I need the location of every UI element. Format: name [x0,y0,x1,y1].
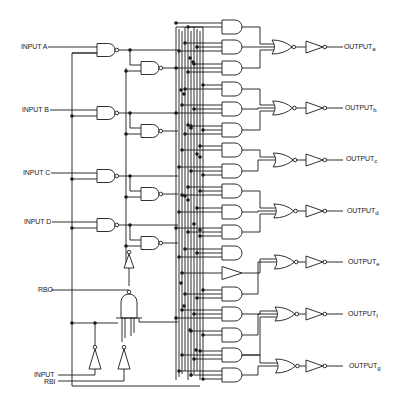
junction-dot [195,45,199,49]
wire [242,108,275,109]
junction-dot [195,296,199,300]
nor-gate [272,40,292,54]
wire [242,89,275,105]
rbo-nand-gate [121,294,137,318]
wire [130,176,141,191]
inversion-bubble [323,106,327,110]
inversion-bubble [115,111,119,115]
junction-dot [177,369,181,373]
junction-dot [124,132,128,136]
wire [242,355,278,363]
buffer-gate [222,267,242,280]
junction-dot [186,70,190,74]
junction-dot [177,165,181,169]
inverter-gate [306,154,323,166]
junction-dot [189,126,193,130]
wire [242,214,276,232]
input-b-label: INPUT B [22,106,49,113]
junction-dot [189,169,193,173]
inverter-gate [306,256,323,268]
wire [242,27,274,44]
and-gate [222,205,242,219]
junction-dot [182,92,186,96]
junction-dot [201,288,205,292]
junction-dot [201,333,205,337]
input-rbi-label-line1: INPUT [34,371,55,378]
input-nand-gate [97,219,115,232]
junction-dot [183,41,187,45]
junction-dot [174,21,178,25]
inversion-bubble [323,364,327,368]
junction-dot [186,185,190,189]
junction-dot [124,69,128,73]
output-b-prefix: OUTPUT [345,104,373,111]
and-gate [222,61,242,75]
junction-dot [174,111,178,115]
junction-dot [183,247,187,251]
inversion-bubble [159,192,163,196]
wire [242,111,275,130]
input-nand-gate [141,188,159,201]
wire [242,50,274,68]
inversion-bubble [127,250,131,254]
wire [242,160,275,171]
junction-dot [195,152,199,156]
junction-dot [183,132,187,136]
output-g-prefix: OUTPUT [349,362,377,369]
junction-dot [198,234,202,238]
output-d-label: OUTPUTd [347,207,378,214]
junction-dot [180,353,184,357]
inverter-gate [124,254,134,268]
output-c-label: OUTPUTc [346,155,377,162]
wire [130,50,141,65]
junction-dot [180,271,184,275]
inversion-bubble [115,48,119,52]
output-f-sub: f [376,313,378,319]
inversion-bubble [122,345,126,349]
junction-dot [188,328,192,332]
junction-dot [70,321,74,325]
nor-gate [276,359,296,373]
junction-dot [124,195,128,199]
wire [242,211,276,212]
and-gate [222,348,242,362]
output-d-sub: d [375,210,378,216]
nor-gate [275,307,295,321]
junction-dot [191,60,195,64]
schematic-svg [0,0,409,407]
and-gate [222,184,242,198]
junction-dot [174,226,178,230]
output-f-label: OUTPUTf [348,310,378,317]
inverter-gate [306,360,323,372]
junction-dot [177,255,181,259]
wire [242,150,275,157]
junction-dot [70,226,74,230]
inversion-bubble [159,66,163,70]
and-gate [222,20,242,34]
wire [130,113,141,128]
junction-dot [70,177,74,181]
wire [242,191,276,208]
nor-gate [273,101,293,115]
and-gate [222,328,242,342]
wire [242,366,278,375]
output-f-prefix: OUTPUT [348,310,376,317]
output-e-sub: e [376,261,379,267]
junction-dot [192,222,196,226]
and-gate [222,307,242,321]
output-a-sub: a [372,46,375,52]
inversion-bubble [159,129,163,133]
input-d-label: INPUT D [24,218,51,225]
logic-diagram: INPUT A INPUT B INPUT C INPUT D RBO INPU… [0,0,409,407]
input-nand-gate [141,125,159,138]
output-e-label: OUTPUTe [348,258,379,265]
junction-dot [188,56,192,60]
junction-dot [177,210,181,214]
input-rbi-label-line2: RBI [44,378,55,385]
junction-dot [174,316,178,320]
inversion-bubble [159,241,163,245]
and-gate [222,368,242,382]
inversion-bubble [323,209,327,213]
nor-gate [274,204,294,218]
input-nand-gate [97,170,115,183]
